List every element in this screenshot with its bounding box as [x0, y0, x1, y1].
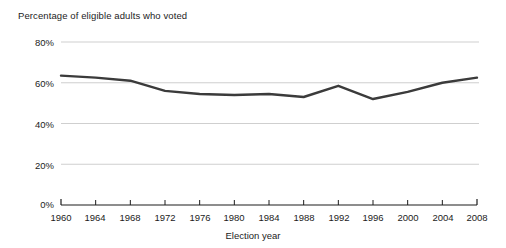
- gridlines: [61, 42, 479, 164]
- x-axis-ticks: [96, 200, 443, 205]
- plot-area: [0, 0, 506, 248]
- chart-container: Percentage of eligible adults who voted …: [0, 0, 506, 248]
- data-line-series-0: [61, 76, 477, 99]
